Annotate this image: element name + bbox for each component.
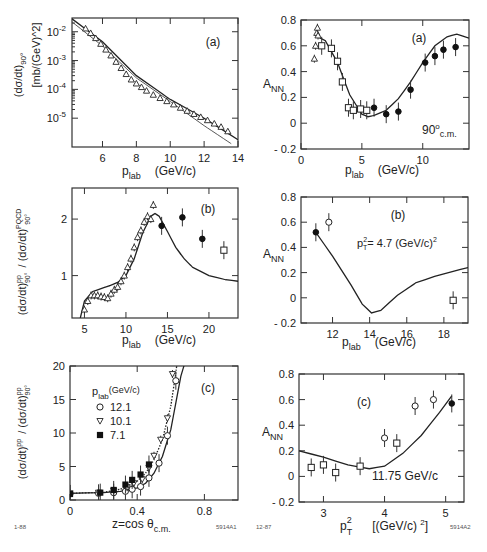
annotation-90cm: 90oc.m. <box>422 122 457 139</box>
open-triangle-marker <box>311 56 317 62</box>
filled-square-marker <box>97 432 103 438</box>
open-triangle-marker <box>150 92 156 98</box>
y-axis-label: (dσ/dt)90° <box>12 53 28 98</box>
open-circle-marker <box>326 219 332 225</box>
filled-circle-marker <box>383 111 389 117</box>
filled-circle-marker <box>371 105 377 111</box>
x-axis-label: plab(GeV/c) <box>122 333 196 350</box>
x-tick-label: 5 <box>359 154 365 166</box>
open-triangle-marker <box>134 234 140 240</box>
panel-label: (b) <box>201 202 216 216</box>
open-triangle-down-marker <box>97 419 103 425</box>
open-triangle-marker <box>141 219 147 225</box>
open-triangle-marker <box>138 227 144 233</box>
y-tick-label: 1 <box>61 270 67 282</box>
plot-area <box>67 359 186 503</box>
x-tick-label: 20 <box>203 323 215 335</box>
y-tick-label: 0.4 <box>281 241 296 253</box>
annotation-pt2: p2T= 4.7 (GeV/c)2 <box>357 236 437 251</box>
y-tick-label: - 0.2 <box>274 317 296 329</box>
open-square-marker <box>308 464 314 470</box>
filled-circle-marker <box>449 401 455 407</box>
y-tick-label: 0 <box>288 470 294 482</box>
y-tick-label: 10-2 <box>47 24 67 38</box>
filled-square-marker <box>67 491 73 497</box>
x-tick-label: 4 <box>381 507 387 519</box>
y-tick-label: 0 <box>290 117 296 129</box>
filled-square-marker <box>122 481 128 487</box>
open-triangle-down-marker <box>151 453 157 459</box>
open-square-marker <box>394 440 400 446</box>
chart-panel-right-a: 0510- 0.200.20.40.60.8(a)plab(GeV/c)ANN9… <box>263 14 469 180</box>
legend-item-label: 10.1 <box>110 415 131 427</box>
y-tick-label: - 0.2 <box>274 143 296 155</box>
y-tick-label: 10-4 <box>47 81 67 95</box>
y-tick-label: 15 <box>53 394 65 406</box>
annotation-momentum: 11.75 GeV/c <box>372 469 438 483</box>
svg-text:(dσ/dt)pp / (dσ/dt)pp90°: (dσ/dt)pp / (dσ/dt)pp90° <box>15 385 31 479</box>
footer-left-id: 5914A1 <box>216 524 237 530</box>
x-axis-label: plab(GeV/c) <box>342 335 416 352</box>
y-tick-label: 0.6 <box>281 40 296 52</box>
open-square-marker <box>333 469 339 475</box>
y-tick-label: 0 <box>290 292 296 304</box>
open-square-marker <box>334 58 340 64</box>
theory-curve <box>299 396 452 469</box>
panel-label: (b) <box>391 208 406 222</box>
y-tick-label: 10 <box>53 427 65 439</box>
x-tick-label: 5 <box>81 323 87 335</box>
filled-circle-marker <box>180 215 186 221</box>
svg-text:(dσ/dt)90°: (dσ/dt)90° <box>12 53 28 98</box>
open-square-marker <box>364 107 370 113</box>
y-tick-label: 10-3 <box>47 53 67 67</box>
legend-item-label: 12.1 <box>110 401 131 413</box>
open-circle-marker <box>412 403 418 409</box>
x-tick-label: 14 <box>232 152 244 164</box>
open-circle-marker <box>381 435 387 441</box>
y-tick-label: 0.8 <box>281 14 296 26</box>
open-square-marker <box>221 247 227 253</box>
y-tick-label: 0.2 <box>281 267 296 279</box>
x-tick-label: 3 <box>320 507 326 519</box>
open-square-marker <box>358 106 364 112</box>
open-square-marker <box>319 43 325 49</box>
x-tick-label: 0.4 <box>130 505 145 517</box>
plot-area <box>80 201 238 318</box>
y-tick-label: 20 <box>53 360 65 372</box>
filled-square-marker <box>137 471 143 477</box>
x-tick-label: 10 <box>164 152 176 164</box>
filled-square-marker <box>97 490 103 496</box>
x-tick-label: 6 <box>99 152 105 164</box>
open-circle-marker <box>156 460 162 466</box>
x-axis-label: plab(GeV/c) <box>122 164 196 181</box>
filled-circle-marker <box>159 223 165 229</box>
plot-area <box>313 213 468 313</box>
panel-label: (a) <box>412 31 427 45</box>
y-tick-label: 2 <box>61 213 67 225</box>
plot-area <box>299 391 455 482</box>
x-tick-label: 0 <box>67 505 73 517</box>
open-circle-marker <box>137 484 143 490</box>
svg-text:(dσ/dt)pp90° / (dσ/dt)PQCD90°: (dσ/dt)pp90° / (dσ/dt)PQCD90° <box>15 209 31 316</box>
footer-right-date: 12-87 <box>256 524 271 530</box>
x-tick-label: 12 <box>326 328 338 340</box>
theory-curve <box>316 34 469 117</box>
panel-label: (c) <box>201 381 215 395</box>
y-axis-label: ANN <box>263 77 284 94</box>
y-tick-label: 0.8 <box>281 191 296 203</box>
filled-circle-marker <box>200 236 206 242</box>
x-tick-label: 5 <box>443 507 449 519</box>
y-tick-label: 5 <box>59 461 65 473</box>
open-square-marker <box>339 79 345 85</box>
open-triangle-marker <box>115 284 121 290</box>
open-circle-marker <box>146 475 152 481</box>
y-axis-label: (dσ/dt)pp / (dσ/dt)pp90° <box>15 385 31 479</box>
open-triangle-marker <box>313 43 319 49</box>
open-triangle-marker <box>128 256 134 262</box>
filled-circle-marker <box>313 229 319 235</box>
legend: plab(GeV/c)12.110.17.1 <box>92 385 140 441</box>
open-circle-marker <box>164 433 170 439</box>
plot-frame <box>301 197 468 323</box>
svg-text:plab(GeV/c): plab(GeV/c) <box>92 385 140 401</box>
filled-square-marker <box>129 477 135 483</box>
